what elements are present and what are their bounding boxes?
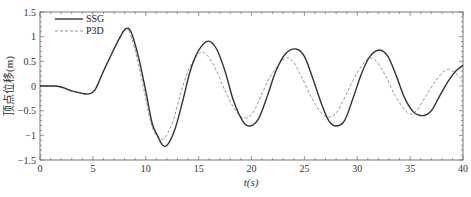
x-tick-label: 20: [247, 163, 257, 174]
displacement-chart: 05101520253035401.510.50−0.5−1−1.5 SSG P…: [0, 0, 471, 197]
y-tick-label: 1.5: [24, 7, 37, 18]
y-tick-label: −1.5: [18, 155, 36, 166]
legend: SSG P3D: [55, 13, 104, 36]
x-tick-label: 10: [141, 163, 151, 174]
x-tick-label: 25: [299, 163, 309, 174]
legend-label-p3d: P3D: [86, 25, 104, 36]
y-axis-title: 顶点位移(m): [2, 56, 16, 116]
x-tick-label: 30: [352, 163, 362, 174]
legend-label-ssg: SSG: [86, 13, 104, 24]
x-tick-label: 40: [458, 163, 468, 174]
series-line-ssg: [40, 28, 463, 146]
y-tick-label: 0.5: [24, 56, 37, 67]
x-tick-label: 35: [405, 163, 415, 174]
y-tick-label: 0: [31, 81, 36, 92]
x-axis-title: t(s): [244, 176, 259, 189]
x-tick-label: 5: [90, 163, 95, 174]
y-tick-label: −0.5: [18, 105, 36, 116]
y-tick-label: −1: [25, 130, 36, 141]
x-tick-label: 15: [194, 163, 204, 174]
series-layer: [40, 28, 463, 146]
x-tick-label: 0: [38, 163, 43, 174]
y-tick-label: 1: [31, 31, 36, 42]
